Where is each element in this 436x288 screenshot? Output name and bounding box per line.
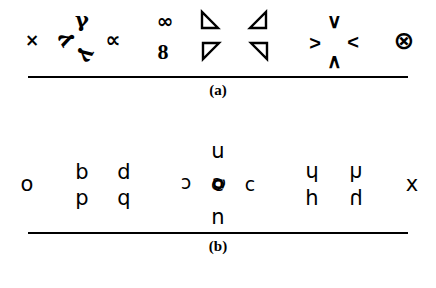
letter-n: n <box>211 207 224 228</box>
knot-stroke: c <box>208 178 229 190</box>
chevron-up-glyph: ∧ <box>327 51 342 71</box>
letter-b: b <box>75 162 88 183</box>
triangle-lower-right <box>200 40 222 66</box>
letter-p: p <box>75 188 88 209</box>
panel-a: ×γγγ∝∞8>∨<∧⊗ (a) <box>0 0 436 110</box>
panel-b-glyph-field: obdpqcunccccchhhhx <box>0 132 436 230</box>
letter-o: o <box>21 174 34 195</box>
panel-b: obdpqcunccccchhhhx (b) <box>0 132 436 262</box>
gamma-glyph-left: γ <box>50 30 75 53</box>
panel-a-rule <box>28 76 408 78</box>
triangle-upper-right <box>247 9 269 35</box>
panel-b-caption: (b) <box>0 238 436 255</box>
panel-b-rule <box>28 232 408 234</box>
letter-h-flip-bottom-right: h <box>349 188 362 209</box>
letter-h-bottom-left: h <box>305 188 318 209</box>
letter-d: d <box>117 162 130 183</box>
triangle-upper-left <box>199 9 221 35</box>
cun-superposition-knot: cccc <box>203 167 233 201</box>
chevron-right-glyph: > <box>309 33 321 53</box>
gamma-glyph-top: γ <box>75 9 89 30</box>
panel-a-glyph-field: ×γγγ∝∞8>∨<∧⊗ <box>0 0 436 74</box>
alpha-glyph: ∝ <box>106 30 121 51</box>
letter-u: u <box>211 141 224 162</box>
chevron-down-glyph: ∨ <box>327 11 342 31</box>
infinity-glyph: ∞ <box>157 11 174 31</box>
letter-q: q <box>117 188 130 209</box>
times-glyph: × <box>25 32 39 49</box>
gamma-glyph-bottom: γ <box>75 45 100 68</box>
circled-times-glyph: ⊗ <box>394 28 415 53</box>
letter-h-rot180-top-left: h <box>305 162 318 183</box>
panel-a-caption: (a) <box>0 82 436 99</box>
eight-glyph: 8 <box>158 41 169 63</box>
letter-x: x <box>406 174 418 195</box>
chevron-left-glyph: < <box>347 32 359 52</box>
letter-h-flip-top-right: h <box>349 162 362 183</box>
letter-c: c <box>245 175 255 194</box>
letter-c-reversed: c <box>181 175 191 194</box>
symmetry-figure: ×γγγ∝∞8>∨<∧⊗ (a) obdpqcunccccchhhhx (b) <box>0 0 436 288</box>
triangle-lower-left <box>248 40 270 66</box>
